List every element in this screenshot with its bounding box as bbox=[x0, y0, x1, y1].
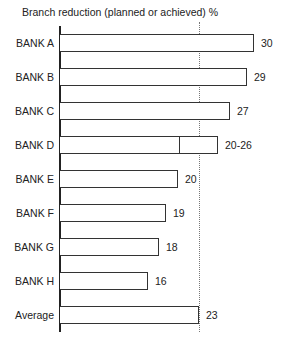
chart-title: Branch reduction (planned or achieved) % bbox=[22, 6, 218, 18]
category-label: BANK A bbox=[16, 37, 54, 49]
bar bbox=[60, 68, 247, 86]
category-label: BANK B bbox=[15, 71, 54, 83]
category-label: Average bbox=[15, 309, 54, 321]
bar-row: BANK E20 bbox=[0, 170, 282, 190]
bar-row: BANK H16 bbox=[0, 272, 282, 292]
bar-row: Average23 bbox=[0, 306, 282, 326]
bar bbox=[60, 136, 218, 154]
category-label: BANK F bbox=[16, 207, 54, 219]
bar-row: BANK F19 bbox=[0, 204, 282, 224]
bar bbox=[60, 170, 178, 188]
category-label: BANK C bbox=[15, 105, 54, 117]
bar bbox=[60, 204, 166, 222]
value-label: 23 bbox=[206, 309, 218, 321]
category-label: BANK H bbox=[15, 275, 54, 287]
category-label: BANK E bbox=[15, 173, 54, 185]
bar-row: BANK D20-26 bbox=[0, 136, 282, 156]
value-label: 18 bbox=[166, 241, 178, 253]
bar bbox=[60, 272, 148, 290]
bar-row: BANK B29 bbox=[0, 68, 282, 88]
value-label: 20-26 bbox=[225, 139, 252, 151]
bar-row: BANK C27 bbox=[0, 102, 282, 122]
bar bbox=[60, 102, 230, 120]
bar bbox=[60, 34, 254, 52]
category-label: BANK D bbox=[15, 139, 54, 151]
value-label: 30 bbox=[261, 37, 273, 49]
value-label: 29 bbox=[254, 71, 266, 83]
value-label: 27 bbox=[237, 105, 249, 117]
bar bbox=[60, 238, 159, 256]
value-label: 20 bbox=[185, 173, 197, 185]
bar-row: BANK G18 bbox=[0, 238, 282, 258]
value-label: 19 bbox=[173, 207, 185, 219]
bar-row: BANK A30 bbox=[0, 34, 282, 54]
range-split bbox=[179, 136, 180, 154]
value-label: 16 bbox=[155, 275, 167, 287]
category-label: BANK G bbox=[14, 241, 54, 253]
bar bbox=[60, 306, 199, 324]
